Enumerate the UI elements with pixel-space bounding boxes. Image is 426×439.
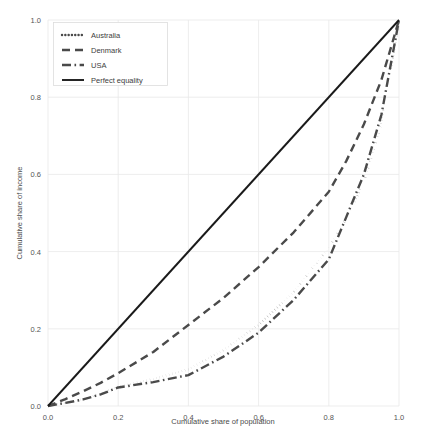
y-axis-title: Cumulative share of income — [15, 167, 24, 260]
chart-canvas: 0.00.20.40.60.81.0 0.00.20.40.60.81.0 Cu… — [0, 0, 426, 439]
y-tick-label: 0.4 — [31, 248, 41, 257]
y-tick-label: 0.2 — [31, 325, 41, 334]
x-tick-label: 0.0 — [43, 413, 53, 422]
y-tick-label: 0.0 — [31, 402, 41, 411]
x-tick-label: 0.8 — [324, 413, 334, 422]
lorenz-curve-chart: 0.00.20.40.60.81.0 0.00.20.40.60.81.0 Cu… — [0, 0, 426, 439]
legend-label: USA — [91, 61, 106, 70]
y-tick-label: 0.8 — [31, 93, 41, 102]
y-tick-label: 0.6 — [31, 170, 41, 179]
legend-label: Perfect equality — [91, 76, 143, 85]
legend-label: Denmark — [91, 46, 122, 55]
chart-legend[interactable]: AustraliaDenmarkUSAPerfect equality — [54, 23, 168, 86]
y-tick-label: 1.0 — [31, 16, 41, 25]
x-tick-label: 1.0 — [394, 413, 404, 422]
legend-label: Australia — [91, 31, 121, 40]
x-tick-label: 0.2 — [113, 413, 123, 422]
x-axis-title: Cumulative share of population — [171, 417, 274, 426]
